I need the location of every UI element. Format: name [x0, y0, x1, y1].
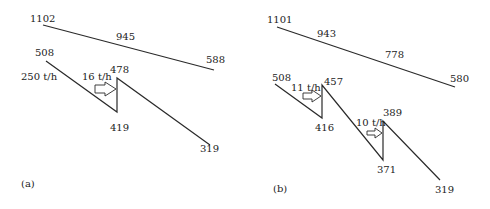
temperature-profile-diagram: 1102 945 588 508 250 t/h 16 t/h 478 419 …	[0, 0, 490, 209]
hot-end-label-b: 580	[450, 73, 469, 84]
cold-flow-label-a: 250 t/h	[21, 71, 58, 82]
injection-arrow-icon-a	[95, 82, 116, 96]
panel-b: 1101 943 778 580 508 11 t/h 457 416 10 t…	[267, 14, 469, 195]
cold-start-label-b: 508	[272, 72, 291, 83]
cold-start-label-a: 508	[35, 47, 54, 58]
panel-caption-a: (a)	[21, 178, 35, 189]
hot-start-label-a: 1102	[30, 13, 55, 24]
cold-end-label-b: 319	[435, 184, 454, 195]
cold-stream-line-b	[275, 84, 440, 180]
injection2-arrow-icon-b	[367, 128, 382, 138]
after-injection1-label-b: 457	[324, 76, 343, 87]
after-injection-label-a: 478	[110, 64, 129, 75]
hot-mid2-label-b: 778	[385, 49, 404, 60]
hot-stream-line-b	[277, 27, 455, 87]
injection2-flow-label-b: 10 t/h	[356, 117, 386, 128]
panel-a: 1102 945 588 508 250 t/h 16 t/h 478 419 …	[21, 13, 225, 189]
before-injection2-label-b: 371	[377, 164, 396, 175]
after-injection2-label-b: 389	[383, 107, 402, 118]
before-injection1-label-b: 416	[315, 122, 334, 133]
hot-mid1-label-b: 943	[317, 28, 336, 39]
hot-start-label-b: 1101	[267, 14, 292, 25]
before-injection-label-a: 419	[110, 122, 129, 133]
injection-flow-label-a: 16 t/h	[82, 71, 112, 82]
injection1-flow-label-b: 11 t/h	[291, 82, 321, 93]
hot-end-label-a: 588	[206, 54, 225, 65]
hot-mid-label-a: 945	[116, 31, 135, 42]
panel-caption-b: (b)	[273, 183, 287, 194]
cold-end-label-a: 319	[200, 143, 219, 154]
